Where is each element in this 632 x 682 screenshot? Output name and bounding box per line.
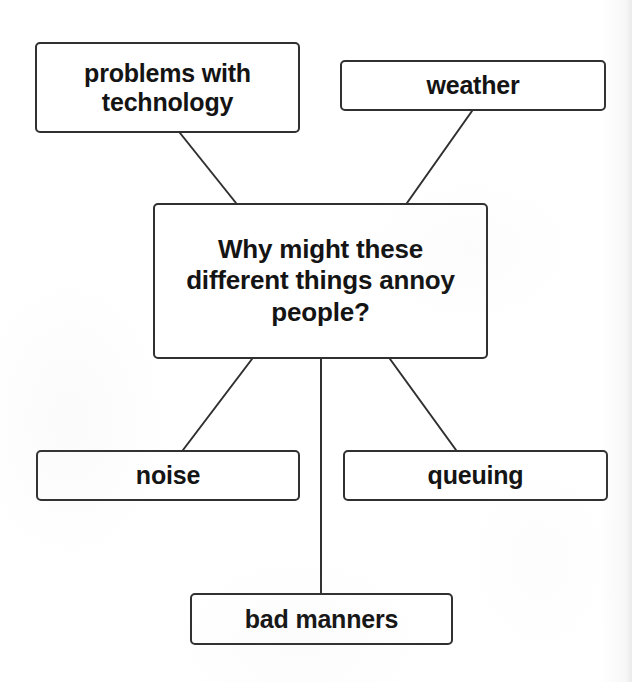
node-label-bad-manners: bad manners xyxy=(245,605,398,634)
node-label-weather: weather xyxy=(426,71,519,100)
node-central-question[interactable]: Why might these different things annoy p… xyxy=(153,203,488,359)
node-queuing[interactable]: queuing xyxy=(343,450,608,501)
node-weather[interactable]: weather xyxy=(340,60,606,111)
node-label-noise: noise xyxy=(136,461,200,490)
node-problems-with-technology[interactable]: problems with technology xyxy=(35,42,300,133)
node-label-queuing: queuing xyxy=(428,461,524,490)
edge-center-to-queuing xyxy=(390,359,456,450)
edge-weather-to-center xyxy=(407,111,472,203)
node-bad-manners[interactable]: bad manners xyxy=(190,593,453,645)
node-noise[interactable]: noise xyxy=(36,450,300,501)
mind-map-canvas: problems with technology weather Why mig… xyxy=(0,0,632,682)
edge-technology-to-center xyxy=(180,133,236,203)
node-label-central-question: Why might these different things annoy p… xyxy=(186,234,455,328)
edge-center-to-noise xyxy=(183,359,252,450)
node-label-problems-with-technology: problems with technology xyxy=(84,59,251,117)
